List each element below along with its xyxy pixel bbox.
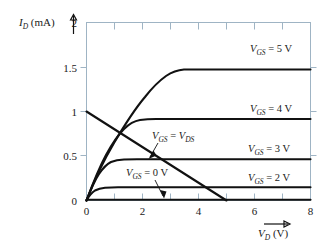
svg-text:ID (mA): ID (mA) [18, 16, 55, 31]
figure-container: 0 0.5 1 1.5 2 0 2 4 6 8 ID (mA) [0, 0, 332, 241]
y-tick-labels: 0 0.5 1 1.5 2 [63, 17, 77, 207]
x-tick-label-0: 0 [84, 205, 90, 217]
x-tick-label-8: 8 [308, 205, 314, 217]
x-tick-label-2: 2 [140, 205, 146, 217]
y-tick-label-1: 1 [72, 106, 78, 118]
label-vgs-equals-vds: VGS = VDS [152, 130, 195, 144]
y-axis-title: ID (mA) [18, 15, 77, 35]
x-tick-label-4: 4 [196, 205, 202, 217]
y-tick-label-0: 0 [72, 195, 78, 207]
svg-text:VD (V): VD (V) [258, 227, 289, 241]
y-tick-label-0.5: 0.5 [63, 150, 77, 162]
label-vgs-5v: VGS = 5 V [250, 43, 292, 57]
right-tickmarks [311, 68, 317, 156]
label-vgs-4v: VGS = 4 V [250, 103, 292, 117]
x-tick-label-6: 6 [252, 205, 258, 217]
y-tick-label-1.5: 1.5 [63, 62, 77, 74]
y-axis-unit: (mA) [31, 16, 55, 29]
x-axis-title: VD (V) [258, 221, 290, 241]
x-axis-unit: (V) [273, 227, 289, 240]
top-tickmarks [115, 23, 283, 30]
label-vgs-0v: VGS = 0 V [126, 167, 168, 181]
leader-arrowhead-vgs-0v [160, 190, 167, 199]
label-vgs-3v: VGS = 3 V [248, 143, 290, 157]
x-tick-labels: 0 2 4 6 8 [84, 205, 314, 217]
characteristic-curves-chart: 0 0.5 1 1.5 2 0 2 4 6 8 ID (mA) [0, 0, 332, 241]
label-vgs-2v: VGS = 2 V [248, 172, 290, 186]
